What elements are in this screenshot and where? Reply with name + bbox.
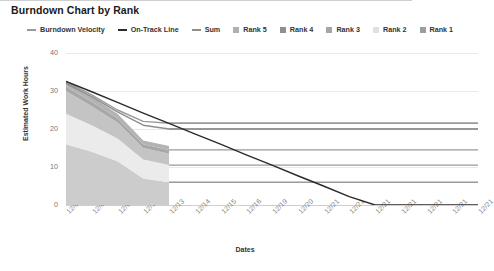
legend-item-label: Burndown Velocity xyxy=(40,25,105,34)
legend-item[interactable]: Rank 1 xyxy=(420,25,454,34)
legend-swatch-icon xyxy=(420,27,426,33)
legend-swatch-icon xyxy=(233,27,239,33)
legend-swatch-icon xyxy=(118,29,127,31)
legend-item-label: Rank 3 xyxy=(336,25,360,34)
legend-item[interactable]: Rank 2 xyxy=(373,25,407,34)
legend-item-label: Rank 1 xyxy=(430,25,454,34)
y-axis-tick-label: 0 xyxy=(36,200,58,209)
x-axis-label: Dates xyxy=(0,246,490,253)
chart-svg xyxy=(66,53,478,205)
legend-item[interactable]: Burndown Velocity xyxy=(27,25,105,34)
legend-swatch-icon xyxy=(280,27,286,33)
legend-swatch-icon xyxy=(192,29,201,31)
legend-item-label: Rank 5 xyxy=(243,25,267,34)
legend-item-label: Rank 2 xyxy=(383,25,407,34)
legend-swatch-icon xyxy=(27,29,36,31)
legend-item-label: Rank 4 xyxy=(290,25,314,34)
legend-swatch-icon xyxy=(326,27,332,33)
y-axis-tick-label: 30 xyxy=(36,86,58,95)
legend-item[interactable]: Sum xyxy=(192,25,221,34)
x-axis-tick-label: 12/21 xyxy=(477,198,494,215)
y-axis-tick-label: 40 xyxy=(36,48,58,57)
page-title: Burndown Chart by Rank xyxy=(11,4,139,16)
plot-area xyxy=(66,53,478,205)
legend-item[interactable]: Rank 5 xyxy=(233,25,267,34)
y-axis-tick-label: 10 xyxy=(36,162,58,171)
chart-legend: Burndown VelocityOn-Track LineSumRank 5R… xyxy=(27,25,466,34)
legend-item-label: On-Track Line xyxy=(131,25,179,34)
legend-item[interactable]: Rank 3 xyxy=(326,25,360,34)
legend-item[interactable]: On-Track Line xyxy=(118,25,179,34)
legend-item[interactable]: Rank 4 xyxy=(280,25,314,34)
x-axis-line xyxy=(0,0,412,1)
legend-item-label: Sum xyxy=(205,25,221,34)
legend-swatch-icon xyxy=(373,27,379,33)
y-axis-label: Estimated Work Hours xyxy=(22,66,29,141)
y-axis-tick-label: 20 xyxy=(36,124,58,133)
